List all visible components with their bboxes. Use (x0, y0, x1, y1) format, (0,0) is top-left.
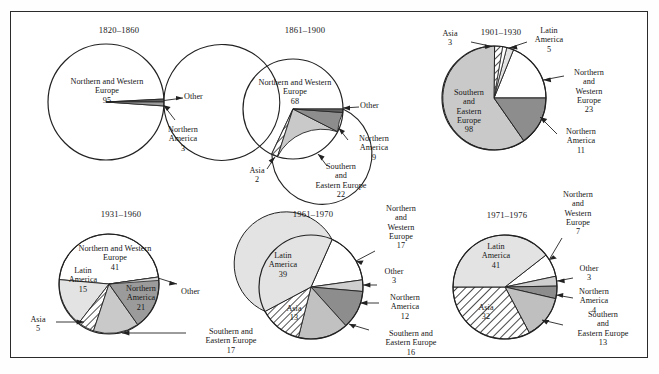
label-northern-western-europe-6: Northern and Western Europe 7 (551, 190, 605, 236)
label-northern-western-europe-1: Northern and Western Europe 95 (47, 77, 167, 105)
leader-other-arrow (557, 279, 565, 284)
chart-title-1861-1900: 1861–1900 (265, 25, 345, 35)
label-northern-america-5: Northern America 12 (377, 293, 433, 321)
chart-title-1820-1860: 1820–1860 (79, 25, 159, 35)
label-other-5: Other 3 (373, 267, 415, 286)
label-southern-eastern-europe-3: Southern and Eastern Europe 98 (443, 88, 495, 134)
leader-northern-western-europe (549, 238, 562, 260)
label-other-2: Other (360, 101, 404, 110)
leader-northern-western-europe (356, 251, 375, 261)
label-latin-america-5: Latin America 39 (256, 251, 310, 279)
label-northern-america-4: Northern America 21 (112, 284, 170, 312)
chart-title-1971-1976: 1971–1976 (467, 210, 547, 220)
label-asia-4: Asia 5 (21, 315, 55, 334)
label-other-1: Other (184, 92, 228, 101)
label-asia-2: Asia 2 (238, 166, 276, 185)
label-northern-america-2: Northern America 9 (343, 134, 405, 162)
label-southern-eastern-europe-2: Southern and Eastern Europe 22 (298, 162, 384, 199)
leader-other-arrow (363, 283, 370, 288)
label-southern-eastern-europe-5: Southern and Eastern Europe 16 (366, 329, 456, 357)
label-asia-6: Asia 32 (466, 303, 506, 322)
label-latin-america-4: Latin America 15 (56, 266, 110, 294)
label-northern-america-1: Northern America 3 (153, 125, 213, 153)
label-latin-america-6: Latin America 41 (469, 242, 523, 270)
chart-title-1961-1970: 1961–1970 (273, 209, 353, 219)
label-northern-america-3: Northern America 11 (554, 127, 608, 155)
chart-title-1931-1960: 1931–1960 (81, 209, 161, 219)
label-other-4: Other (181, 287, 223, 296)
leader-northern-western-europe-arrow (543, 78, 551, 83)
label-southern-eastern-europe-4: Southern and Eastern Europe 17 (188, 327, 274, 355)
label-asia-3: Asia 3 (429, 29, 471, 48)
label-asia-5: Asia 13 (276, 304, 312, 323)
label-other-6: Other 3 (568, 264, 610, 283)
label-latin-america-3: Latin America 5 (525, 26, 573, 54)
label-northern-western-europe-5: Northern and Western Europe 17 (375, 204, 427, 250)
figure-frame: 1820–1860 Northern and Western Europe 95… (10, 11, 648, 358)
label-northern-western-europe-3: Northern and Western Europe 23 (562, 68, 616, 114)
label-southern-eastern-europe-6: Southern and Eastern Europe 13 (557, 310, 649, 347)
figure-canvas: 1820–1860 Northern and Western Europe 95… (0, 0, 659, 374)
label-northern-western-europe-2: Northern and Western Europe 68 (239, 78, 351, 106)
